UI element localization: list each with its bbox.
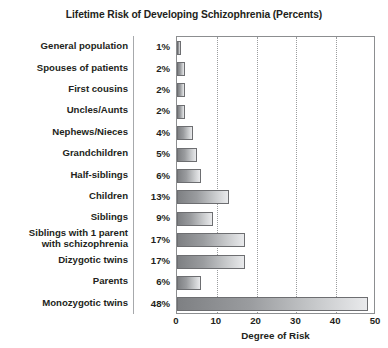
- category-label: Nephews/Nieces: [2, 127, 128, 138]
- category-label: Siblings with 1 parentwith schizophrenia: [2, 228, 128, 249]
- value-label: 1%: [136, 41, 170, 52]
- category-label: Parents: [2, 276, 128, 287]
- value-label: 2%: [136, 63, 170, 74]
- category-label: Spouses of patients: [2, 63, 128, 74]
- category-label: Half-siblings: [2, 170, 128, 181]
- x-tick-label: 10: [210, 315, 221, 326]
- x-tick-label: 20: [250, 315, 261, 326]
- category-label: General population: [2, 41, 128, 52]
- value-label: 9%: [136, 212, 170, 223]
- value-label: 5%: [136, 148, 170, 159]
- value-label: 17%: [136, 234, 170, 245]
- x-axis-title: Degree of Risk: [176, 330, 375, 341]
- chart-container: Lifetime Risk of Developing Schizophreni…: [0, 0, 388, 348]
- value-label: 48%: [136, 298, 170, 309]
- value-label: 2%: [136, 84, 170, 95]
- value-label: 2%: [136, 105, 170, 116]
- chart-title: Lifetime Risk of Developing Schizophreni…: [0, 9, 388, 20]
- category-label-line2: with schizophrenia: [2, 239, 128, 250]
- x-axis-ticks: 01020304050: [176, 315, 375, 329]
- category-label: Children: [2, 191, 128, 202]
- category-label: First cousins: [2, 84, 128, 95]
- value-label: 6%: [136, 170, 170, 181]
- category-rows: General population1%Spouses of patients2…: [0, 35, 388, 316]
- value-label: 4%: [136, 127, 170, 138]
- value-label: 17%: [136, 255, 170, 266]
- x-tick-label: 50: [370, 315, 381, 326]
- category-label: Monozygotic twins: [2, 298, 128, 309]
- x-tick-label: 0: [173, 315, 178, 326]
- x-tick-label: 40: [330, 315, 341, 326]
- value-label: 6%: [136, 276, 170, 287]
- category-label: Siblings: [2, 212, 128, 223]
- value-label: 13%: [136, 191, 170, 202]
- x-tick-label: 30: [290, 315, 301, 326]
- category-label: Uncles/Aunts: [2, 105, 128, 116]
- category-label: Grandchildren: [2, 148, 128, 159]
- category-label: Dizygotic twins: [2, 255, 128, 266]
